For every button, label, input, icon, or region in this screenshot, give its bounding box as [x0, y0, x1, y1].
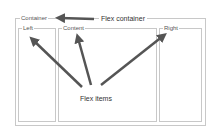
arrow-to-right-icon — [101, 36, 163, 85]
arrow-to-container-icon — [60, 18, 94, 19]
arrow-to-left-icon — [33, 40, 82, 87]
arrows-layer — [0, 0, 220, 135]
arrow-to-content-icon — [78, 38, 91, 85]
flex-items-note: Flex items — [78, 95, 114, 103]
